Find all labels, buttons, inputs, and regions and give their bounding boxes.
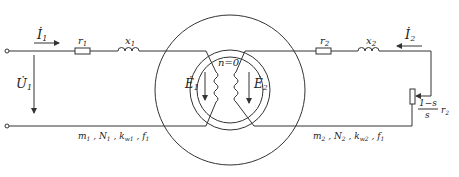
label-load-numerator: 1−s <box>419 98 437 108</box>
label-r2: r2 <box>320 35 330 48</box>
coil-e2 <box>234 72 238 102</box>
label-r1: r1 <box>78 35 87 48</box>
label-x2: x2 <box>366 35 377 48</box>
label-i1: İ1 <box>36 26 47 43</box>
label-speed: n=0 <box>218 57 240 68</box>
label-load-r2: r2 <box>441 105 449 116</box>
circuit-diagram: İ1 r1 x1 U̇1 Ė1 Ė2 n=0 r2 x2 İ2 1−s s r2… <box>0 0 459 177</box>
resistor-r2 <box>316 48 331 54</box>
load-resistor <box>410 89 415 104</box>
inductor-x1 <box>118 48 139 51</box>
coil2-lead-bottom <box>236 102 254 126</box>
coil-e1 <box>214 72 218 102</box>
label-rotor-params: m2 , N2 , kw2 , f1 <box>313 131 384 142</box>
coil1-lead-top <box>206 51 216 72</box>
label-u1: U̇1 <box>16 76 32 92</box>
terminal-top-left <box>5 49 9 53</box>
terminal-bottom-left <box>5 124 9 128</box>
label-load-denominator: s <box>425 110 430 120</box>
label-e1: Ė1 <box>184 76 199 92</box>
label-e2: Ė2 <box>253 76 268 92</box>
label-stator-params: m1 , N1 , kw1 , f1 <box>78 131 149 142</box>
stator-circle <box>155 15 305 165</box>
label-x1: x1 <box>125 35 135 48</box>
inductor-x2 <box>358 48 379 51</box>
resistor-r1 <box>75 48 90 54</box>
label-i2: İ2 <box>404 26 415 43</box>
